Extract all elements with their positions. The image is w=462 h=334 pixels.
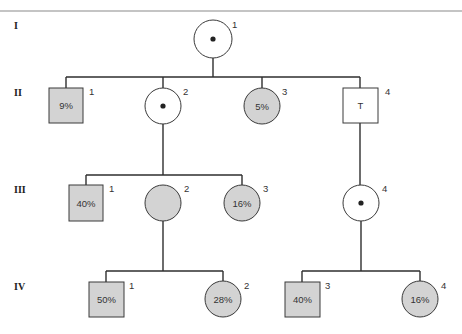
generation-label-i: I (14, 20, 18, 31)
individual-number: 1 (89, 86, 94, 97)
generation-label-ii: II (14, 87, 22, 98)
symbol-text: T (358, 100, 364, 111)
individual-number: 3 (325, 280, 330, 291)
individual-number: 4 (385, 86, 390, 97)
individual-iii1: 40% 1 (69, 183, 114, 221)
risk-percentage: 40% (76, 198, 96, 209)
individual-iii3: 16% 3 (224, 183, 268, 221)
individual-number: 2 (184, 183, 189, 194)
individual-iii2: 2 (145, 183, 189, 221)
individual-ii3: 5% 3 (244, 86, 287, 124)
risk-percentage: 16% (232, 198, 252, 209)
individual-ii2: 2 (145, 86, 188, 124)
individual-number: 1 (232, 19, 237, 30)
carrier-dot-icon (160, 103, 165, 108)
individual-number: 4 (382, 183, 387, 194)
risk-percentage: 50% (97, 294, 117, 305)
generation-label-iii: III (14, 184, 26, 195)
pedigree-chart: I II III IV 1 9% 1 2 (0, 0, 462, 334)
individual-number: 1 (109, 183, 114, 194)
individual-iii4: 4 (343, 183, 387, 221)
generation-label-iv: IV (14, 281, 26, 292)
individual-number: 3 (282, 86, 287, 97)
individual-iv2: 28% 2 (205, 280, 249, 317)
individual-iv1: 50% 1 (89, 280, 134, 317)
risk-percentage: 16% (410, 294, 430, 305)
individual-number: 2 (244, 280, 249, 291)
individual-ii1: 9% 1 (49, 86, 94, 123)
individual-number: 3 (263, 183, 268, 194)
female-symbol (145, 185, 181, 221)
carrier-dot-icon (210, 36, 215, 41)
risk-percentage: 9% (59, 100, 73, 111)
individual-number: 4 (441, 280, 446, 291)
risk-percentage: 40% (293, 294, 313, 305)
individual-i1: 1 (194, 19, 237, 58)
carrier-dot-icon (358, 200, 363, 205)
individual-number: 1 (129, 280, 134, 291)
individual-number: 2 (183, 86, 188, 97)
risk-percentage: 5% (255, 101, 269, 112)
individual-iv3: 40% 3 (285, 280, 330, 317)
individual-ii4: T 4 (343, 86, 390, 123)
risk-percentage: 28% (213, 294, 233, 305)
individual-iv4: 16% 4 (402, 280, 446, 317)
